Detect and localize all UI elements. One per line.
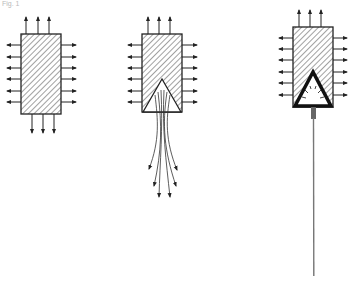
panel-intact [7,17,76,133]
panel-wedge [128,17,197,197]
block [21,34,61,114]
panel-jet [279,10,347,276]
diagram-canvas [0,0,350,281]
jet [311,107,316,276]
